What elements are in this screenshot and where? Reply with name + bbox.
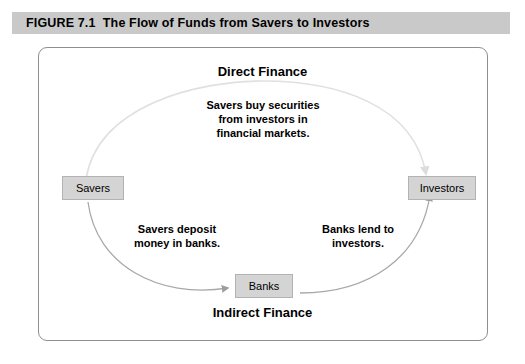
- node-investors-label: Investors: [420, 182, 465, 194]
- annotation-direct-finance: Savers buy securities from investors in …: [175, 98, 351, 140]
- node-banks: Banks: [235, 274, 293, 298]
- annotation-deposit-line2: money in banks.: [115, 236, 239, 250]
- figure-caption-label: FIGURE: [26, 16, 74, 30]
- figure-caption-text: FIGURE 7.1 The Flow of Funds from Savers…: [26, 16, 370, 30]
- annotation-deposit-line1: Savers deposit: [115, 222, 239, 236]
- annotation-banks-lend: Banks lend to investors.: [300, 222, 416, 250]
- heading-indirect-finance: Indirect Finance: [0, 305, 525, 320]
- node-investors: Investors: [408, 176, 476, 200]
- node-savers: Savers: [62, 176, 124, 200]
- node-banks-label: Banks: [249, 280, 280, 292]
- annotation-lend-line2: investors.: [300, 236, 416, 250]
- annotation-direct-line3: financial markets.: [175, 126, 351, 140]
- annotation-savers-deposit: Savers deposit money in banks.: [115, 222, 239, 250]
- figure-caption-title: The Flow of Funds from Savers to Investo…: [103, 16, 370, 30]
- figure-caption-number: 7.1: [78, 16, 96, 30]
- annotation-lend-line1: Banks lend to: [300, 222, 416, 236]
- heading-direct-finance: Direct Finance: [0, 64, 525, 79]
- annotation-direct-line2: from investors in: [175, 112, 351, 126]
- annotation-direct-line1: Savers buy securities: [175, 98, 351, 112]
- node-savers-label: Savers: [76, 182, 110, 194]
